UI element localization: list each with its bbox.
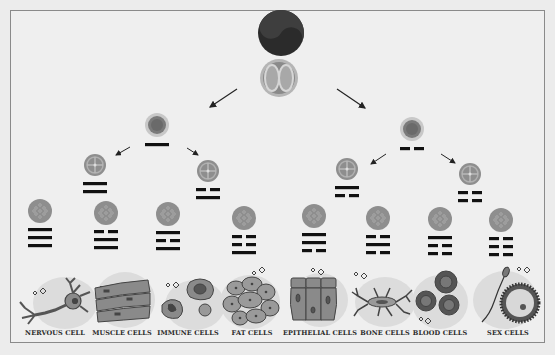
broken-line-right: [210, 188, 220, 191]
trigram-lines: [335, 186, 359, 197]
broken-line-right: [472, 191, 482, 194]
stem-cell-icon: [336, 158, 358, 180]
trigram-lines: [302, 233, 326, 252]
solid-line: [428, 236, 452, 239]
solid-line: [302, 241, 326, 244]
cell-node: [458, 163, 482, 202]
solid-line: [196, 196, 220, 199]
cell-type-label: BONE CELLS: [360, 329, 409, 337]
stem-cell-icon: [197, 160, 219, 182]
broken-line-right: [246, 243, 256, 246]
cell-node: [489, 208, 513, 256]
trigram-lines: [28, 228, 52, 247]
stem-cell-icon: [94, 201, 118, 225]
cell-type-label: NERVOUS CELL: [25, 329, 85, 337]
stem-cell-icon: [366, 206, 390, 230]
broken-line-left: [156, 239, 166, 242]
stem-cell-icon: [145, 113, 169, 137]
cell-node: [400, 117, 424, 150]
cell-node: [28, 199, 52, 247]
cell-node: [366, 206, 390, 254]
broken-line-left: [428, 252, 438, 255]
broken-line-left: [400, 147, 410, 150]
cell-node: [335, 158, 359, 197]
solid-line: [94, 246, 118, 249]
differentiation-diagram: [0, 0, 555, 355]
solid-line: [83, 182, 107, 185]
cell-node: [302, 204, 326, 252]
cell-type-label: BLOOD CELLS: [413, 329, 467, 337]
broken-line-right: [316, 249, 326, 252]
trigram-lines: [458, 191, 482, 202]
trigram-lines: [489, 237, 513, 256]
solid-line: [145, 143, 169, 146]
cell-type-label: MUSCLE CELLS: [92, 329, 152, 337]
broken-line-left: [232, 235, 242, 238]
broken-line-right: [380, 251, 390, 254]
broken-line-right: [503, 253, 513, 256]
stem-cell-icon: [489, 208, 513, 232]
trigram-lines: [145, 143, 169, 146]
trigram-lines: [94, 230, 118, 249]
cell-type-label: IMMUNE CELLS: [157, 329, 218, 337]
broken-line-right: [442, 244, 452, 247]
solid-line: [156, 231, 180, 234]
trigram-lines: [196, 188, 220, 199]
stem-cell-icon: [156, 202, 180, 226]
broken-line-right: [380, 235, 390, 238]
solid-line: [94, 238, 118, 241]
arrow-l1-left-b: [187, 148, 198, 155]
broken-line-right: [108, 230, 118, 233]
broken-line-left: [458, 191, 468, 194]
broken-line-left: [196, 188, 206, 191]
broken-line-right: [170, 239, 180, 242]
cell-node: [156, 202, 180, 250]
cell-node: [196, 160, 220, 199]
broken-line-left: [489, 245, 499, 248]
stem-cell-icon: [232, 206, 256, 230]
arrow-l1-right-b: [441, 154, 455, 163]
solid-line: [156, 247, 180, 250]
arrow-root-right: [337, 89, 365, 108]
solid-line: [28, 236, 52, 239]
stem-cell-icon: [428, 207, 452, 231]
cell-node: [145, 113, 169, 146]
broken-line-right: [472, 199, 482, 202]
stem-cell-icon: [84, 154, 106, 176]
broken-line-left: [335, 194, 345, 197]
stem-cell-icon: [302, 204, 326, 228]
stem-cell-icon: [28, 199, 52, 223]
broken-line-left: [489, 237, 499, 240]
stem-cell-icon: [459, 163, 481, 185]
solid-line: [335, 186, 359, 189]
solid-line: [28, 244, 52, 247]
broken-line-left: [458, 199, 468, 202]
broken-line-left: [428, 244, 438, 247]
broken-line-right: [414, 147, 424, 150]
two-cell-embryo-icon: [260, 59, 298, 97]
solid-line: [28, 228, 52, 231]
cell-type-label: SEX CELLS: [487, 329, 529, 337]
trigram-lines: [400, 147, 424, 150]
solid-line: [302, 233, 326, 236]
trigram-lines: [428, 236, 452, 255]
trigram-lines: [83, 182, 107, 193]
broken-line-left: [489, 253, 499, 256]
broken-line-left: [366, 251, 376, 254]
stem-cell-icon: [400, 117, 424, 141]
broken-line-left: [302, 249, 312, 252]
cell-type-label: EPITHELIAL CELLS: [283, 329, 357, 337]
cell-node: [428, 207, 452, 255]
solid-line: [83, 190, 107, 193]
cell-node: [232, 206, 256, 254]
broken-line-left: [94, 230, 104, 233]
trigram-lines: [232, 235, 256, 254]
epithelial-cell-icon: [290, 278, 336, 320]
solid-line: [366, 243, 390, 246]
broken-line-right: [349, 194, 359, 197]
solid-line: [232, 251, 256, 254]
broken-line-right: [442, 252, 452, 255]
muscle-fiber-icon: [95, 280, 150, 322]
broken-line-right: [503, 237, 513, 240]
cell-node: [94, 201, 118, 249]
